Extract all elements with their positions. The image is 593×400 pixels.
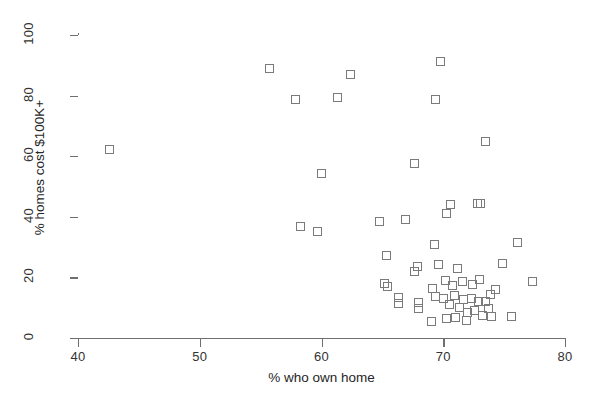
x-axis-tick [443,339,444,347]
scatter-point [448,281,457,290]
scatter-point [317,169,326,178]
scatter-point [401,215,410,224]
y-axis-tick [70,96,78,97]
x-axis-tick-label: 70 [421,349,465,364]
scatter-point [453,264,462,273]
scatter-point [445,300,454,309]
scatter-point [476,199,485,208]
y-axis-tick [70,156,78,157]
scatter-point [486,290,495,299]
x-axis-tick-label: 80 [543,349,587,364]
scatter-point [430,240,439,249]
scatter-point [436,57,445,66]
scatter-point [333,93,342,102]
scatter-point [528,277,537,286]
scatter-point [383,282,392,291]
scatter-point [296,222,305,231]
y-axis-tick [70,277,78,278]
scatter-point [313,227,322,236]
scatter-point [410,267,419,276]
x-axis-tick-label: 60 [300,349,344,364]
x-axis-tick [200,339,201,347]
scatter-point [382,251,391,260]
scatter-point [442,209,451,218]
y-axis-tick [70,35,78,36]
scatter-point [498,259,507,268]
scatter-point [513,238,522,247]
scatter-point [346,70,355,79]
scatter-point [265,64,274,73]
y-axis-tick-label: 0 [21,311,36,363]
scatter-point [434,260,443,269]
scatter-point [451,313,460,322]
scatter-plot-figure: 020406080100 4050607080 % homes cost $10… [0,0,593,400]
x-axis-tick [322,339,323,347]
scatter-point [507,312,516,321]
scatter-point [410,159,419,168]
scatter-point [291,95,300,104]
scatter-point [487,312,496,321]
y-axis-title: % homes cost $100K+ [32,53,47,283]
x-axis-tick [78,339,79,347]
scatter-point [450,291,459,300]
scatter-point [431,95,440,104]
x-axis-tick-label: 50 [178,349,222,364]
scatter-point [446,200,455,209]
y-axis-tick [70,217,78,218]
scatter-point [414,304,423,313]
scatter-point [458,277,467,286]
scatter-point [462,316,471,325]
scatter-point [427,317,436,326]
scatter-point [375,217,384,226]
x-axis-tick [565,339,566,347]
x-axis-tick-label: 40 [56,349,100,364]
y-axis-tick [70,338,78,339]
scatter-point [481,137,490,146]
scatter-point [394,299,403,308]
scatter-point [105,145,114,154]
x-axis-title: % who own home [78,370,565,385]
plot-area [78,35,565,338]
scatter-point [475,275,484,284]
